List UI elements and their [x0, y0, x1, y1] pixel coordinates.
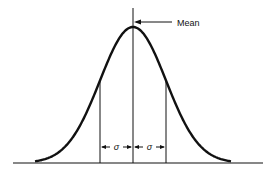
mean-pointer-arrow [134, 20, 172, 25]
normal-curve-diagram: Mean σ σ [0, 0, 275, 174]
sigma-right-label: σ [147, 142, 153, 152]
mean-label: Mean [177, 18, 200, 28]
sigma-left-label: σ [114, 142, 120, 152]
